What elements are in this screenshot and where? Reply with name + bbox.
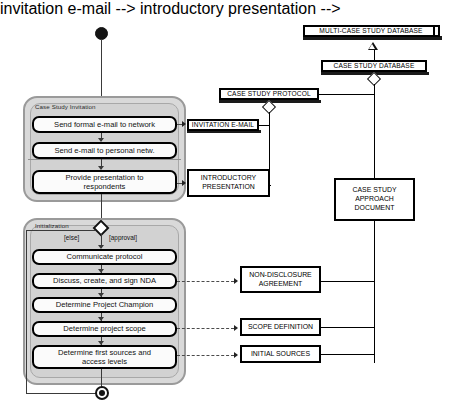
artifact-label-line1: NON-DISCLOSURE: [249, 271, 311, 280]
partition-divider-invitation: [28, 159, 181, 160]
link-invitation-email-to-branch: [259, 125, 270, 126]
artifact-label-line2: APPROACH: [355, 195, 394, 204]
action-label: Send e-mail to personal netw.: [54, 146, 154, 155]
action-send-personal-email[interactable]: Send e-mail to personal netw.: [32, 142, 177, 159]
artifact-multi-case-study-database[interactable]: MULTI-CASE STUDY DATABASE: [303, 25, 439, 37]
artifact-label-line2: AGREEMENT: [259, 280, 303, 289]
artifact-label: SCOPE DEFINITION: [248, 323, 313, 332]
link-scope-definition-to-trunk: [321, 327, 375, 328]
action-discuss-sign-nda[interactable]: Discuss, create, and sign NDA: [32, 273, 177, 289]
action-provide-presentation[interactable]: Provide presentation to respondents: [32, 170, 177, 194]
artifact-introductory-presentation[interactable]: INTRODUCTORY PRESENTATION: [187, 169, 270, 197]
artifact-label: CASE STUDY DATABASE: [334, 62, 415, 71]
arrowhead-initial-sources: [234, 352, 238, 358]
arrowhead-invitation-email: [182, 121, 186, 127]
action-label-line1: Provide presentation to: [65, 173, 143, 182]
artifact-label-line2: PRESENTATION: [202, 183, 255, 192]
artifact-case-study-protocol[interactable]: CASE STUDY PROTOCOL: [219, 88, 319, 100]
link-nda-to-trunk: [321, 281, 375, 282]
multi-case-db-tab: [433, 25, 440, 37]
artifact-label-line1: CASE STUDY: [352, 186, 396, 195]
action-determine-project-champion[interactable]: Determine Project Champion: [32, 297, 177, 313]
artifact-initial-sources[interactable]: INITIAL SOURCES: [240, 345, 321, 363]
link-initial-sources-to-trunk: [321, 354, 375, 355]
artifact-non-disclosure-agreement[interactable]: NON-DISCLOSURE AGREEMENT: [240, 266, 321, 293]
artifact-scope-definition[interactable]: SCOPE DEFINITION: [240, 318, 321, 336]
activity-final-node: [95, 386, 109, 400]
link-introductory-presentation-to-branch: [268, 185, 271, 186]
artifact-label: MULTI-CASE STUDY DATABASE: [319, 27, 422, 36]
action-label-line1: Determine first sources and: [58, 348, 151, 357]
artifact-case-study-database[interactable]: CASE STUDY DATABASE: [321, 60, 427, 72]
partition-label-case-study-invitation: Case Study Invitation: [35, 103, 96, 110]
artifact-label-line1: INTRODUCTORY: [201, 174, 256, 183]
arrowhead-nda: [234, 278, 238, 284]
link-protocol-to-trunk: [319, 94, 375, 95]
guard-label-else: [else]: [64, 234, 79, 241]
action-label-line2: respondents: [84, 182, 126, 191]
flow-else-branch-vertical: [26, 230, 27, 393]
flow-else-branch-horizontal: [26, 230, 95, 231]
activity-diagram-canvas: Case Study Invitation Send formal e-mail…: [0, 0, 453, 419]
artifact-case-study-approach-document[interactable]: CASE STUDY APPROACH DOCUMENT: [334, 178, 415, 221]
artifact-label: INVITATION E-MAIL: [192, 121, 254, 130]
artifact-label: CASE STUDY PROTOCOL: [227, 90, 311, 99]
guard-label-approval: [approval]: [109, 234, 137, 241]
action-determine-project-scope[interactable]: Determine project scope: [32, 321, 177, 337]
partition-label-initialization: Initialization: [35, 222, 69, 229]
generalization-arrow-icon: [368, 42, 378, 50]
artifact-label: INITIAL SOURCES: [251, 350, 310, 359]
action-label: Send formal e-mail to network: [54, 120, 155, 129]
arrowhead-scope-definition: [234, 325, 238, 331]
flow-loop-back-to-final: [26, 393, 96, 394]
action-send-formal-email[interactable]: Send formal e-mail to network: [32, 116, 177, 133]
action-label: Determine Project Champion: [56, 300, 154, 309]
action-label: Determine project scope: [63, 324, 145, 333]
action-determine-first-sources[interactable]: Determine first sources and access level…: [32, 345, 177, 369]
dependency-a5-to-nda: [177, 281, 234, 282]
dependency-a8-to-initial-sources: [177, 355, 234, 356]
artifact-invitation-email[interactable]: INVITATION E-MAIL: [187, 119, 259, 131]
trunk-right-vertical: [374, 84, 375, 363]
action-label-line2: access levels: [82, 357, 127, 366]
dependency-a7-to-scope-definition: [177, 328, 234, 329]
action-label: Discuss, create, and sign NDA: [53, 276, 156, 285]
action-label: Communicate protocol: [67, 252, 143, 261]
artifact-label-line3: DOCUMENT: [355, 204, 395, 213]
arrowhead-introductory-presentation: [182, 180, 186, 186]
action-communicate-protocol[interactable]: Communicate protocol: [32, 249, 177, 265]
